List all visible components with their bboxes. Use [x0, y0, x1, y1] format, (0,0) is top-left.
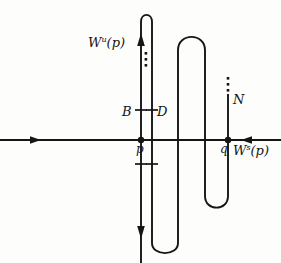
- label-region-B: B: [122, 105, 132, 118]
- ellipsis-dot: [227, 89, 230, 92]
- homoclinic-tangle-figure: Wu(p) Ws(p) B D N p q: [0, 0, 281, 263]
- ellipsis-dots-group: [145, 52, 230, 92]
- ellipsis-dot: [227, 77, 230, 80]
- arrow-up-icon: [137, 33, 145, 46]
- dots-near-region-N: [227, 77, 230, 92]
- label-region-N: N: [233, 93, 244, 106]
- fold-bottom-narrow: [152, 243, 178, 253]
- arrow-down-icon: [137, 226, 145, 239]
- ellipsis-dot: [227, 83, 230, 86]
- fold-top-narrow: [141, 15, 152, 22]
- axis-arrow-right-icon: [30, 136, 41, 144]
- ellipsis-dot: [145, 58, 148, 61]
- diagram-canvas: [0, 0, 281, 263]
- label-unstable-manifold: Wu(p): [88, 36, 125, 49]
- dots-near-unstable-manifold: [145, 52, 148, 67]
- label-point-p: p: [136, 143, 144, 155]
- ellipsis-dot: [145, 52, 148, 55]
- label-stable-manifold: Ws(p): [233, 144, 269, 157]
- label-region-D: D: [157, 105, 167, 118]
- unstable-manifold-curve: [141, 15, 228, 263]
- fold-bottom-wide: [205, 196, 228, 208]
- label-point-q: q: [220, 143, 228, 155]
- ellipsis-dot: [145, 64, 148, 67]
- fold-top-wide: [178, 37, 205, 50]
